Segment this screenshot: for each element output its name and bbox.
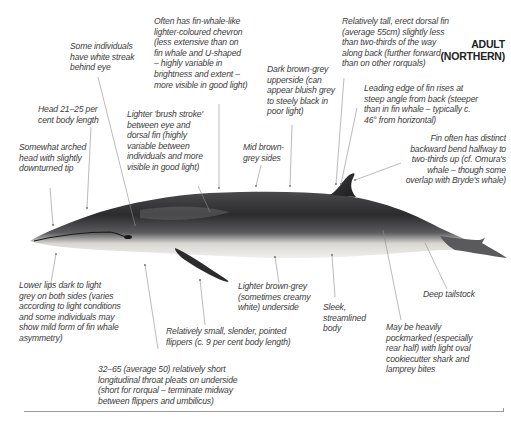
annotation-underside: Lighter brown-grey (sometimes creamy whi… — [238, 281, 310, 313]
whale-body — [30, 192, 480, 258]
annotation-upperside: Dark brown-grey upperside (can appear bl… — [267, 64, 335, 117]
annotation-head-length: Head 21–25 per cent body length — [38, 104, 99, 125]
annotation-dorsal-fin: Relatively tall, erect dorsal fin (avera… — [342, 16, 449, 69]
bottom-divider-tick — [503, 408, 504, 412]
dorsal-fin — [330, 173, 356, 197]
annotation-tailstock: Deep tailstock — [423, 289, 475, 300]
annotation-brush-stroke: Lighter 'brush stroke' between eye and d… — [127, 109, 203, 173]
annotation-flippers: Relatively small, slender, pointed flipp… — [166, 326, 291, 347]
annotation-throat-pleats: 32–65 (average 50) relatively short long… — [98, 364, 237, 406]
bottom-divider — [24, 411, 504, 412]
annotation-sleek-body: Sleek, streamlined body — [323, 302, 366, 334]
annotation-pockmarked: May be heavily pockmarked (especially re… — [386, 322, 473, 375]
annotation-fin-bend: Fin often has distinct backward bend hal… — [395, 133, 506, 186]
annotation-white-streak: Some individuals have white streak behin… — [70, 41, 134, 73]
annotation-sides: Mid brown- grey sides — [243, 142, 284, 163]
annotation-arched-head: Somewhat arched head with slightly downt… — [19, 142, 86, 174]
annotation-lower-lips: Lower lips dark to light grey on both si… — [19, 280, 121, 344]
annotation-leading-edge: Leading edge of fin rises at steep angle… — [364, 83, 478, 125]
annotation-chevron: Often has fin-whale-like lighter-coloure… — [154, 16, 247, 90]
